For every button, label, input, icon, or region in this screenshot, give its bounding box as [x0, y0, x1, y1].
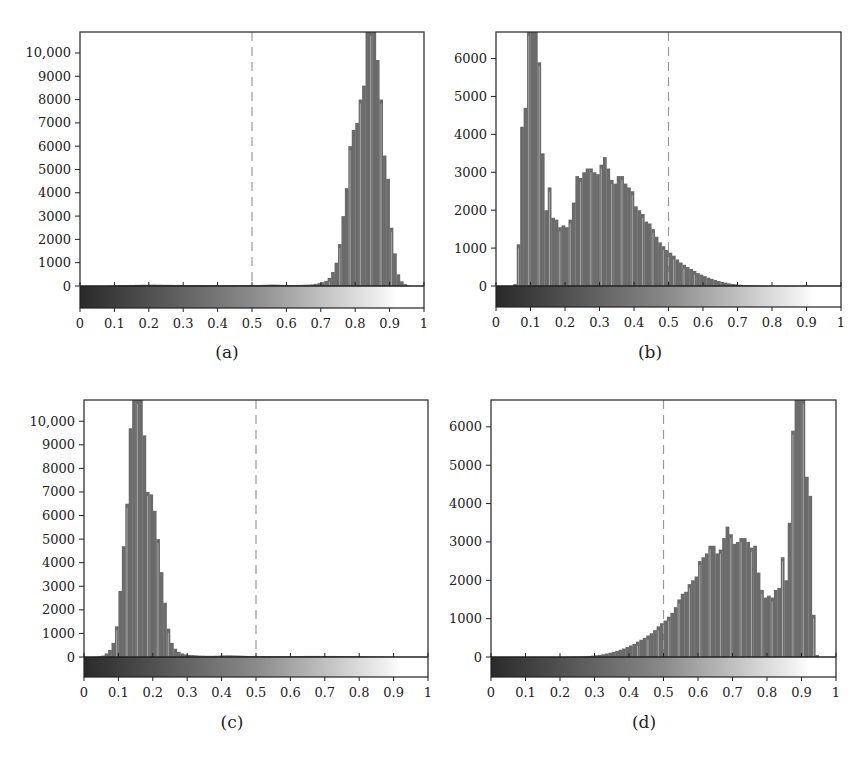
x-tick-label: 0.3: [584, 685, 605, 700]
y-tick-label: 4000: [38, 185, 71, 200]
y-tick-label: 10,000: [30, 414, 76, 429]
x-tick-label: 0.2: [550, 685, 571, 700]
colorbar: [496, 286, 841, 307]
x-tick-label: 0.8: [349, 685, 370, 700]
x-tick-label: 0: [487, 685, 495, 700]
x-tick-label: 0.9: [379, 316, 400, 331]
histogram-panel-d: 010002000300040005000600000.10.20.30.40.…: [434, 390, 868, 766]
y-tick-label: 0: [474, 650, 482, 665]
x-tick-label: 0.3: [177, 685, 198, 700]
panel-caption-d: (d): [614, 712, 674, 732]
y-tick-label: 7000: [38, 115, 71, 130]
x-tick-label: 0.5: [246, 685, 267, 700]
y-tick-label: 7000: [42, 484, 75, 499]
y-tick-label: 9000: [42, 437, 75, 452]
y-tick-label: 6000: [38, 139, 71, 154]
x-tick-label: 0.5: [658, 315, 679, 330]
x-tick-label: 0.5: [242, 316, 263, 331]
x-tick-label: 1: [832, 685, 840, 700]
x-tick-label: 0.9: [791, 685, 812, 700]
y-tick-label: 2000: [454, 203, 487, 218]
y-tick-label: 1000: [42, 626, 75, 641]
y-axis: 010002000300040005000600070008000900010,…: [30, 414, 85, 665]
y-tick-label: 5000: [38, 162, 71, 177]
x-tick-label: 0.4: [207, 316, 228, 331]
panel-caption-c: (c): [202, 712, 262, 732]
y-tick-label: 1000: [38, 255, 71, 270]
histogram-plot-a: 010002000300040005000600070008000900010,…: [0, 0, 434, 380]
colorbar: [84, 657, 428, 677]
y-tick-label: 1000: [449, 611, 482, 626]
y-tick-label: 0: [479, 279, 487, 294]
x-tick-label: 0.1: [104, 316, 125, 331]
x-tick-label: 0: [76, 316, 84, 331]
y-tick-label: 3000: [38, 209, 71, 224]
x-tick-label: 0.6: [688, 685, 709, 700]
x-tick-label: 0.1: [108, 685, 129, 700]
histogram-plot-b: 010002000300040005000600000.10.20.30.40.…: [434, 0, 868, 380]
x-tick-label: 0.3: [589, 315, 610, 330]
x-tick-label: 0.7: [722, 685, 743, 700]
y-tick-label: 6000: [454, 51, 487, 66]
colorbar: [80, 286, 424, 308]
panel-caption-b: (b): [620, 342, 680, 362]
histogram-bars: [94, 400, 397, 657]
y-tick-label: 6000: [449, 419, 482, 434]
histogram-plot-c: 010002000300040005000600070008000900010,…: [0, 390, 434, 766]
x-tick-label: 0.8: [762, 315, 783, 330]
y-tick-label: 3000: [449, 534, 482, 549]
x-tick-label: 0.9: [796, 315, 817, 330]
x-tick-label: 0.6: [280, 685, 301, 700]
y-tick-label: 6000: [42, 508, 75, 523]
y-tick-label: 5000: [449, 458, 482, 473]
histogram-panel-a: 010002000300040005000600070008000900010,…: [0, 0, 434, 380]
y-tick-label: 4000: [42, 555, 75, 570]
colorbar: [491, 657, 836, 677]
x-tick-label: 0.7: [310, 316, 331, 331]
histogram-bars: [546, 400, 819, 657]
y-tick-label: 10,000: [26, 45, 72, 60]
histogram-panel-b: 010002000300040005000600000.10.20.30.40.…: [434, 0, 868, 380]
y-tick-label: 2000: [42, 602, 75, 617]
x-tick-label: 0: [80, 685, 88, 700]
x-tick-label: 0.5: [653, 685, 674, 700]
x-tick-label: 0.3: [173, 316, 194, 331]
x-tick-label: 1: [837, 315, 845, 330]
x-tick-label: 0.2: [138, 316, 159, 331]
y-axis: 0100020003000400050006000: [454, 51, 496, 293]
y-axis: 010002000300040005000600070008000900010,…: [26, 45, 81, 293]
y-tick-label: 8000: [38, 92, 71, 107]
x-tick-label: 0.2: [555, 315, 576, 330]
x-tick-label: 0.4: [619, 685, 640, 700]
x-tick-label: 0.1: [515, 685, 536, 700]
panel-caption-a: (a): [197, 342, 257, 362]
x-tick-label: 1: [420, 316, 428, 331]
y-tick-label: 9000: [38, 69, 71, 84]
y-tick-label: 0: [67, 650, 75, 665]
y-tick-label: 1000: [454, 241, 487, 256]
x-tick-label: 0.6: [693, 315, 714, 330]
y-tick-label: 3000: [454, 165, 487, 180]
x-tick-label: 0.7: [727, 315, 748, 330]
y-tick-label: 4000: [454, 127, 487, 142]
y-tick-label: 3000: [42, 579, 75, 594]
y-tick-label: 2000: [449, 573, 482, 588]
y-tick-label: 2000: [38, 232, 71, 247]
y-tick-label: 5000: [42, 532, 75, 547]
y-tick-label: 0: [63, 279, 71, 294]
y-tick-label: 8000: [42, 461, 75, 476]
x-tick-label: 0: [492, 315, 500, 330]
histogram-bars: [108, 32, 411, 286]
x-tick-label: 0.4: [211, 685, 232, 700]
x-tick-label: 0.8: [345, 316, 366, 331]
x-tick-label: 0.2: [142, 685, 163, 700]
x-tick-label: 0.9: [383, 685, 404, 700]
histogram-bars: [513, 32, 786, 286]
y-tick-label: 4000: [449, 496, 482, 511]
y-tick-label: 5000: [454, 89, 487, 104]
x-tick-label: 0.7: [314, 685, 335, 700]
y-axis: 0100020003000400050006000: [449, 419, 491, 664]
x-tick-label: 0.4: [624, 315, 645, 330]
x-tick-label: 0.6: [276, 316, 297, 331]
histogram-panel-c: 010002000300040005000600070008000900010,…: [0, 390, 434, 766]
